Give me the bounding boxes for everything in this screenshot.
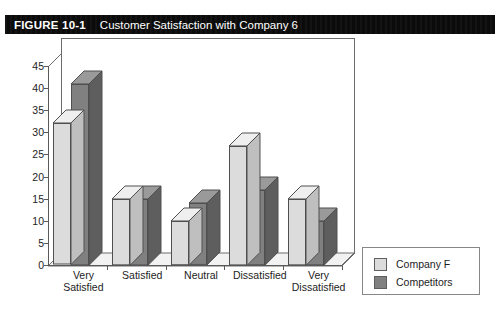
x-category-line: Dissatisfied	[282, 282, 356, 294]
y-tick-label: 30	[22, 127, 44, 137]
y-tick-label: 15	[22, 194, 44, 204]
y-tick-label: 35	[22, 105, 44, 115]
x-axis-line	[48, 265, 342, 266]
bar-company-f	[229, 133, 260, 265]
y-tick-label: 20	[22, 172, 44, 182]
x-category-line: Satisfied	[46, 282, 120, 294]
y-tick-mark	[44, 110, 48, 111]
plot-top-connector	[48, 53, 62, 67]
figure-number: FIGURE 10-1	[5, 19, 86, 31]
x-category-label: VeryDissatisfied	[282, 270, 356, 293]
y-axis-line	[48, 66, 49, 265]
legend-label-company-f: Company F	[396, 258, 450, 270]
y-tick-label: 10	[22, 216, 44, 226]
y-tick-mark	[44, 177, 48, 178]
y-tick-mark	[44, 199, 48, 200]
legend-label-competitors: Competitors	[396, 276, 453, 288]
x-category-line: Very	[282, 270, 356, 282]
legend-item-competitors: Competitors	[374, 275, 453, 289]
legend-swatch-competitors	[374, 276, 387, 289]
y-tick-label: 0	[22, 260, 44, 270]
bar-company-f	[53, 110, 84, 265]
chart-plot: 051015202530354045 VerySatisfiedSatisfie…	[0, 36, 504, 309]
y-tick-mark	[44, 243, 48, 244]
bar-company-f	[288, 186, 319, 265]
y-axis-labels: 051015202530354045	[18, 36, 44, 309]
bar-company-f	[112, 186, 143, 265]
bar-company-f	[171, 208, 202, 265]
y-tick-mark	[44, 132, 48, 133]
legend-item-company-f: Company F	[374, 257, 450, 271]
y-tick-mark	[44, 265, 48, 266]
y-tick-mark	[44, 88, 48, 89]
y-tick-label: 25	[22, 149, 44, 159]
figure-title: Customer Satisfaction with Company 6	[86, 19, 298, 31]
y-tick-mark	[44, 221, 48, 222]
chart-legend: Company F Competitors	[362, 247, 480, 295]
legend-swatch-company-f	[374, 258, 387, 271]
y-tick-mark	[44, 154, 48, 155]
y-tick-label: 5	[22, 238, 44, 248]
y-tick-label: 40	[22, 83, 44, 93]
y-tick-mark	[44, 66, 48, 67]
plot-right-connector	[341, 252, 356, 267]
figure-header-bar: FIGURE 10-1 Customer Satisfaction with C…	[5, 15, 495, 34]
y-tick-label: 45	[22, 61, 44, 71]
